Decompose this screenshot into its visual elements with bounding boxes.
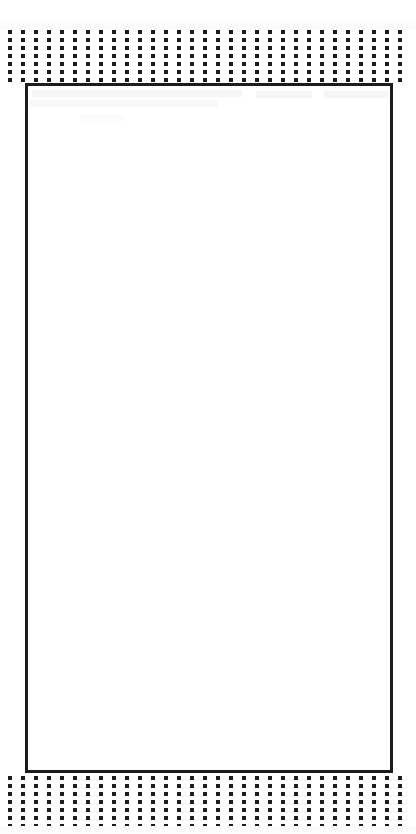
perforation-dash-column bbox=[47, 30, 51, 84]
perforation-dash-column bbox=[229, 776, 233, 826]
perforation-dash-column bbox=[320, 776, 324, 826]
perforation-dash-column bbox=[99, 30, 103, 84]
perforation-dash-column bbox=[34, 776, 38, 826]
perforation-dash-column bbox=[359, 30, 363, 84]
perforation-dash-column bbox=[372, 30, 376, 84]
perforation-dash-column bbox=[385, 30, 389, 84]
paper-speckle-band-top bbox=[0, 20, 416, 30]
perforation-dash-column bbox=[47, 776, 51, 826]
perforation-dash-column bbox=[151, 30, 155, 84]
perforation-dash-column bbox=[255, 30, 259, 84]
perforation-dash-column bbox=[216, 776, 220, 826]
bottom-perforation-comb bbox=[0, 776, 416, 826]
perforation-dash-column bbox=[307, 776, 311, 826]
perforation-dash-column bbox=[333, 30, 337, 84]
perforation-dash-column bbox=[255, 776, 259, 826]
perforation-dash-column bbox=[112, 30, 116, 84]
perforation-dash-column bbox=[8, 30, 12, 84]
perforation-dash-column bbox=[229, 30, 233, 84]
perforation-dash-column bbox=[99, 776, 103, 826]
perforation-dash-column bbox=[60, 776, 64, 826]
perforation-dash-column bbox=[190, 30, 194, 84]
perforation-dash-column bbox=[307, 30, 311, 84]
perforation-dash-column bbox=[294, 776, 298, 826]
perforation-dash-column bbox=[346, 30, 350, 84]
perforation-dash-column bbox=[359, 776, 363, 826]
perforation-dash-column bbox=[190, 776, 194, 826]
perforation-dash-column bbox=[242, 30, 246, 84]
perforation-dash-column bbox=[21, 776, 25, 826]
ruled-box bbox=[25, 83, 393, 773]
faint-ink-residue bbox=[32, 90, 242, 97]
perforation-dash-column bbox=[177, 776, 181, 826]
faint-ink-residue bbox=[256, 91, 312, 98]
perforation-dash-column bbox=[73, 776, 77, 826]
perforation-dash-column bbox=[268, 776, 272, 826]
perforation-dash-column bbox=[320, 30, 324, 84]
perforation-dash-column bbox=[281, 30, 285, 84]
perforation-dash-column bbox=[138, 776, 142, 826]
perforation-dash-column bbox=[346, 776, 350, 826]
perforation-dash-column bbox=[164, 776, 168, 826]
perforation-dash-column bbox=[203, 776, 207, 826]
perforation-dash-column bbox=[372, 776, 376, 826]
perforation-dash-column bbox=[138, 30, 142, 84]
perforation-dash-column bbox=[268, 30, 272, 84]
perforation-dash-column bbox=[398, 776, 402, 826]
perforation-dash-column bbox=[125, 30, 129, 84]
perforation-dash-column bbox=[34, 30, 38, 84]
faint-ink-residue bbox=[324, 91, 388, 98]
top-perforation-comb bbox=[0, 30, 416, 84]
perforation-dash-column bbox=[60, 30, 64, 84]
perforation-dash-column bbox=[203, 30, 207, 84]
ruled-box-interior bbox=[28, 86, 390, 770]
perforation-dash-column bbox=[294, 30, 298, 84]
faint-ink-residue bbox=[80, 114, 124, 121]
scanned-page bbox=[0, 0, 416, 834]
perforation-dash-column bbox=[151, 776, 155, 826]
perforation-dash-column bbox=[281, 776, 285, 826]
perforation-dash-column bbox=[177, 30, 181, 84]
paper-speckle-band-bottom bbox=[0, 826, 416, 834]
perforation-dash-column bbox=[125, 776, 129, 826]
perforation-dash-column bbox=[86, 776, 90, 826]
perforation-dash-column bbox=[242, 776, 246, 826]
perforation-dash-column bbox=[86, 30, 90, 84]
perforation-dash-column bbox=[216, 30, 220, 84]
perforation-dash-column bbox=[164, 30, 168, 84]
perforation-dash-column bbox=[385, 776, 389, 826]
perforation-dash-column bbox=[8, 776, 12, 826]
perforation-dash-column bbox=[333, 776, 337, 826]
faint-ink-residue bbox=[30, 100, 218, 107]
perforation-dash-column bbox=[112, 776, 116, 826]
perforation-dash-column bbox=[398, 30, 402, 84]
perforation-dash-column bbox=[73, 30, 77, 84]
perforation-dash-column bbox=[21, 30, 25, 84]
